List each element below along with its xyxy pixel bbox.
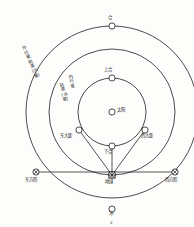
marker-conjunction <box>109 23 115 29</box>
marker-sun <box>109 109 115 115</box>
label-earth: 地球 <box>105 180 113 185</box>
label-inferior-conjunction: 下合 <box>104 150 112 155</box>
planetary-configuration-diagram: 合 上合 太阳 下合 东大距 西大距 东方照 西方照 地球 冲 外行星轨道(火星… <box>0 0 194 227</box>
label-superior-conjunction: 上合 <box>104 68 112 73</box>
figure-caption: 2 <box>110 220 113 225</box>
label-western-quadrature: 西方照 <box>165 178 177 183</box>
label-opposition: 冲 <box>109 212 113 217</box>
label-greatest-western-elongation: 西大距 <box>141 134 153 139</box>
label-eastern-quadrature: 东方照 <box>25 178 37 183</box>
marker-east-elongation <box>76 127 82 133</box>
label-greatest-eastern-elongation: 东大距 <box>60 134 72 139</box>
diagram-canvas <box>0 0 194 227</box>
label-sun: 太阳 <box>117 108 125 113</box>
marker-superior-conjunction <box>109 75 115 81</box>
label-conjunction: 合 <box>108 16 112 21</box>
